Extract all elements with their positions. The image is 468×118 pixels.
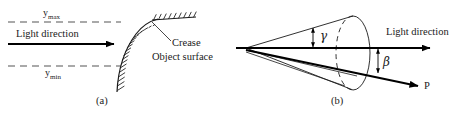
label-vector-p: P: [424, 81, 430, 92]
cone-base-ellipse-hidden: [336, 16, 353, 90]
label-crease: Crease: [172, 38, 201, 49]
figure-vector-graphics: [0, 0, 468, 118]
label-light-direction-b: Light direction: [386, 27, 449, 38]
vector-p-arrow: [246, 50, 418, 86]
label-object-surface: Object surface: [152, 52, 213, 63]
label-ymin: ymin: [45, 68, 61, 81]
label-beta: β: [383, 56, 390, 68]
cone-upper-edge: [246, 16, 353, 48]
crease-leader-line: [152, 22, 171, 41]
label-ymax: ymax: [43, 8, 60, 21]
label-gamma: γ: [320, 30, 327, 42]
caption-a: (a): [96, 96, 108, 107]
label-light-direction-a: Light direction: [16, 29, 79, 40]
inner-cone-lower-edge: [246, 52, 345, 86]
cone-base-ellipse-visible: [353, 16, 370, 90]
caption-b: (b): [331, 96, 343, 107]
figure-container: ymax ymin Light direction Crease Object …: [0, 0, 468, 118]
